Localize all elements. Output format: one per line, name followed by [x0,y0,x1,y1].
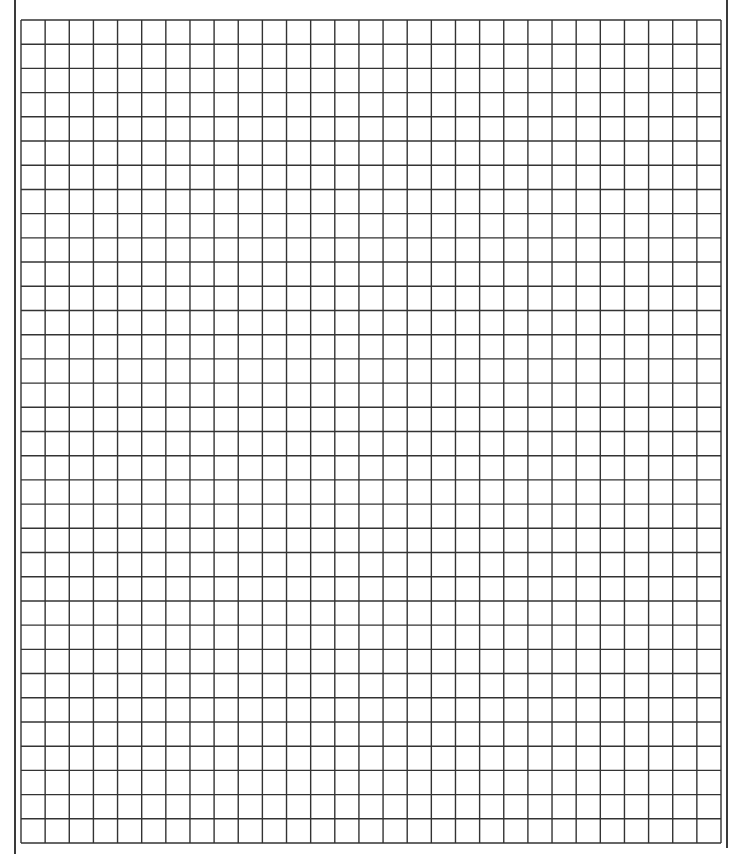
left-margin-line [14,0,16,854]
grid-lines [20,19,722,844]
right-margin-line [726,0,728,848]
square-grid [20,19,722,844]
